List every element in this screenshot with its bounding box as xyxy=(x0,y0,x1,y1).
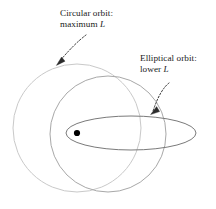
label-elliptical-orbit-line2: lower L xyxy=(140,64,197,75)
label-circular-orbit-line2: maximum L xyxy=(60,19,113,30)
elliptical-orbit-path xyxy=(66,116,196,150)
arrow-to-elliptical-orbit-line xyxy=(153,83,169,111)
arrow-to-circular-orbit-head xyxy=(56,57,65,65)
label-circular-orbit-symbol-l: L xyxy=(100,19,105,29)
arrow-to-circular-orbit-line xyxy=(59,35,86,62)
label-circular-orbit-line2-text: maximum xyxy=(60,19,100,29)
label-elliptical-orbit-line1: Elliptical orbit: xyxy=(140,53,197,64)
label-elliptical-orbit-symbol-l: L xyxy=(164,64,169,74)
arrow-to-elliptical-orbit-head xyxy=(151,107,160,115)
circular-orbit-outer-path xyxy=(13,64,141,192)
label-elliptical-orbit-line2-text: lower xyxy=(140,64,164,74)
circular-orbit-inner-path xyxy=(50,76,166,192)
orbit-diagram: Circular orbit: maximum L Elliptical orb… xyxy=(0,0,216,209)
label-elliptical-orbit: Elliptical orbit: lower L xyxy=(140,53,197,76)
label-circular-orbit: Circular orbit: maximum L xyxy=(60,8,113,31)
focus-dot xyxy=(74,130,80,136)
label-circular-orbit-line1: Circular orbit: xyxy=(60,8,113,19)
orbit-diagram-canvas xyxy=(0,0,216,209)
